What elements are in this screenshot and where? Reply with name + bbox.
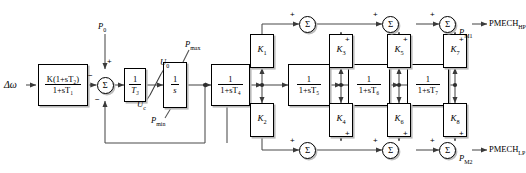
integrator-transfer-function: 1 s [169,75,181,95]
block-gain-k1[interactable]: K1 [250,34,274,68]
integrator-denominator: s [171,84,179,95]
gain-t3-numerator: 1 [129,75,141,85]
lag-t5-denominator: 1+sT₅ [297,84,322,95]
output-node-hp-label: PM1 [459,28,472,40]
rate-upper-sub: 0 [166,63,169,69]
gain-k6-label: K6 [394,114,403,125]
integrator-numerator: 1 [171,75,179,85]
lag-t6-denominator: 1+sT₆ [357,84,382,95]
block-lag-t4[interactable]: 1 1+sT₄ [211,64,250,106]
lag-t7-transfer-function: 1 1+sT₇ [414,75,443,95]
gain-k5-label: K5 [394,45,403,56]
pmech-hp-text: PMECH [489,18,518,28]
pm2-sub: M2 [464,159,472,165]
pos-upper-sub: max [190,45,200,51]
pos-lower-sub: min [156,121,165,127]
sigma-glyph: Σ [445,19,450,29]
rate-lower-sub: c [143,105,146,111]
gain-t3-transfer-function: 1 T₃ [127,75,143,95]
summer-top-2[interactable]: Σ [382,16,399,33]
sigma-glyph: Σ [305,19,310,29]
governor-denominator: 1+sT₁ [45,84,81,95]
governor-transfer-function: K(1+sT₂) 1+sT₁ [43,75,83,95]
summer-top-1[interactable]: Σ [299,16,316,33]
output-label-pmech-hp: PMECHHP [489,19,526,31]
summer-bottom-2[interactable]: Σ [382,142,399,159]
block-lag-t7[interactable]: 1 1+sT₇ [407,64,449,106]
lag-t5-transfer-function: 1 1+sT₅ [295,75,324,95]
sigma-glyph: Σ [305,145,310,155]
summer-bottom-2-sign-left: + [373,137,378,145]
gain-k7-label: K7 [450,45,459,56]
sigma-glyph: Σ [445,145,450,155]
lag-t4-denominator: 1+sT₄ [218,84,243,95]
gain-t3-denominator: T₃ [129,84,141,95]
summer-input-sign-left: − [88,72,93,80]
rate-limit-upper-label: U0 [160,58,169,70]
pmech-lp-text: PMECH [489,144,518,154]
gain-k1-label: K1 [257,45,266,56]
lag-t5-numerator: 1 [297,75,322,85]
output-label-pmech-lp: PMECHLP [489,145,525,157]
lag-t4-numerator: 1 [218,75,243,85]
lag-t7-numerator: 1 [416,75,441,85]
setpoint-label: P0 [98,22,106,34]
lag-t4-transfer-function: 1 1+sT₄ [216,75,245,95]
summer-top-1-sign-left: + [290,11,295,19]
lag-t6-numerator: 1 [357,75,382,85]
summer-top-2-sign-bottom: + [403,36,408,44]
summer-bottom-3-sign-top: + [459,130,464,138]
summer-bottom-1-sign-left: + [290,137,295,145]
position-limit-lower-label: Pmin [151,116,165,128]
lag-t6-transfer-function: 1 1+sT₆ [355,75,384,95]
summer-bottom-3-sign-left: + [430,137,435,145]
block-governor[interactable]: K(1+sT₂) 1+sT₁ [38,64,88,106]
block-lag-t6[interactable]: 1 1+sT₆ [348,64,390,106]
summer-bottom-1-sign-top: + [345,130,350,138]
summer-bottom-3[interactable]: Σ [439,142,456,159]
pmech-lp-sub: LP [518,150,525,156]
output-node-lp-label: PM2 [459,154,472,166]
gain-k3-label: K3 [336,45,345,56]
summer-input-sign-bottom: − [95,96,100,104]
position-limit-upper-label: Pmax [185,40,200,52]
pmech-hp-sub: HP [518,24,526,30]
summer-input[interactable]: Σ [97,77,114,94]
summer-bottom-1[interactable]: Σ [299,142,316,159]
summer-top-3-sign-left: + [430,11,435,19]
block-lag-t5[interactable]: 1 1+sT₅ [288,64,330,106]
summer-top-3[interactable]: Σ [439,16,456,33]
block-gain-k2[interactable]: K2 [250,103,274,137]
pm1-sub: M1 [464,33,472,39]
sigma-glyph: Σ [102,80,107,90]
gain-k2-label: K2 [257,114,266,125]
lag-t7-denominator: 1+sT₇ [416,84,441,95]
summer-top-2-sign-left: + [373,11,378,19]
sigma-glyph: Σ [388,145,393,155]
gain-k4-label: K4 [336,114,345,125]
summer-bottom-2-sign-top: + [403,130,408,138]
setpoint-sign: + [107,58,112,66]
input-label: Δω [4,80,17,90]
summer-top-1-sign-bottom: + [345,36,350,44]
rate-limit-lower-label: Uc [137,100,146,112]
gain-k8-label: K8 [450,114,459,125]
governor-numerator: K(1+sT₂) [45,75,81,85]
block-gain-t3[interactable]: 1 T₃ [124,68,146,102]
sigma-glyph: Σ [388,19,393,29]
setpoint-sub: 0 [103,27,106,33]
